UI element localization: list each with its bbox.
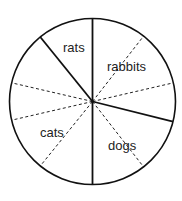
label-rats: rats (63, 40, 85, 55)
label-rabbits: rabbits (107, 59, 147, 74)
pie-chart-svg: rats rabbits cats dogs (0, 0, 182, 201)
label-cats: cats (40, 125, 64, 140)
slice-divider-line (93, 102, 174, 122)
pie-chart: rats rabbits cats dogs (0, 0, 182, 201)
dashed-guide-line (93, 102, 144, 167)
slice-dividers (40, 19, 173, 185)
dashed-guide-line (12, 102, 93, 121)
label-dogs: dogs (108, 138, 137, 153)
dashed-guide-line (93, 83, 174, 102)
